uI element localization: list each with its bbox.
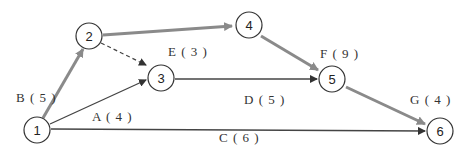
network-diagram: B ( 5 ) A ( 4 ) C ( 6 ) E ( 3 ) D ( 5 ) …: [0, 0, 470, 163]
node-1-label: 1: [33, 123, 40, 138]
node-3: 3: [148, 65, 174, 91]
edge-2-3-dashed: [101, 43, 146, 65]
node-1: 1: [24, 117, 50, 143]
edge-label-G: G ( 4 ): [410, 92, 451, 107]
edge-1-2-critical: [43, 49, 83, 118]
node-6: 6: [427, 118, 453, 144]
edge-4-5-critical: [261, 36, 318, 70]
node-4: 4: [236, 12, 262, 38]
edge-2-4-critical: [103, 26, 232, 35]
edge-label-F: F ( 9 ): [320, 46, 359, 61]
edge-label-B: B ( 5 ): [16, 90, 57, 105]
edge-label-D: D ( 5 ): [244, 92, 285, 107]
edge-label-E: E ( 3 ): [168, 44, 208, 59]
node-6-label: 6: [436, 124, 443, 139]
node-3-label: 3: [157, 71, 164, 86]
edge-label-C: C ( 6 ): [219, 130, 260, 145]
node-4-label: 4: [245, 18, 252, 33]
edge-label-A: A ( 4 ): [92, 109, 133, 124]
node-2-label: 2: [85, 29, 92, 44]
node-5-label: 5: [328, 72, 335, 87]
node-2: 2: [76, 23, 102, 49]
node-5: 5: [319, 66, 345, 92]
